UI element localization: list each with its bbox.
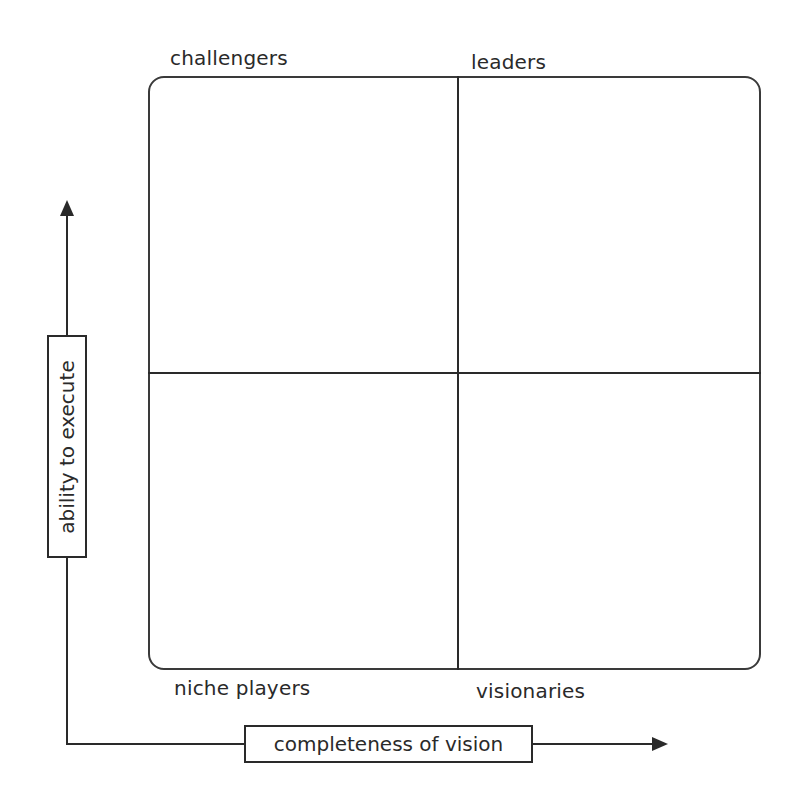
arrow-right-icon: [652, 737, 668, 751]
quadrant-label-visionaries: visionaries: [476, 679, 585, 703]
y-axis-label-box: ability to execute: [47, 335, 87, 558]
x-axis-label-box: completeness of vision: [244, 725, 533, 763]
arrow-up-icon: [60, 200, 74, 216]
y-axis-label: ability to execute: [55, 360, 79, 533]
x-axis-label: completeness of vision: [274, 732, 504, 756]
quadrant-label-niche-players: niche players: [174, 676, 310, 700]
horizontal-divider: [148, 372, 761, 374]
quadrant-label-leaders: leaders: [471, 50, 546, 74]
quadrant-label-challengers: challengers: [170, 46, 288, 70]
